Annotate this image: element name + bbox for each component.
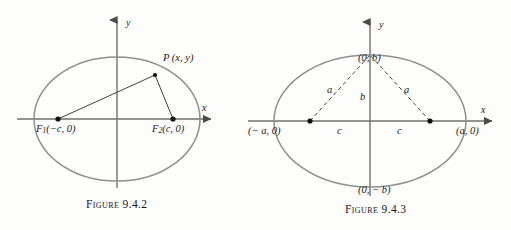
segment-c-right-label: c: [397, 126, 402, 137]
vertex-right-label: (a, 0): [456, 126, 479, 137]
point-p-dot: [153, 73, 157, 77]
focus-2-coords: (c, 0): [162, 123, 184, 134]
segment-c-left-label: c: [337, 126, 342, 137]
focus-1-coords: (−c, 0): [46, 123, 75, 134]
figure-page: y x P (x, y) F1(−c, 0) F2(c, 0) Figure 9…: [0, 0, 511, 230]
focus-left-dot: [307, 118, 312, 123]
figure-9-4-2-graphic: [17, 20, 211, 188]
caption-figure-9-4-2: Figure 9.4.2: [86, 198, 148, 210]
y-axis-label-left: y: [126, 18, 130, 28]
x-axis-label-left: x: [202, 103, 206, 113]
segment-f1-p: [58, 75, 155, 119]
focus-1-dot: [55, 116, 60, 121]
segment-f2-p: [155, 75, 173, 119]
figures-canvas: [0, 0, 511, 230]
focus-2-label: F2(c, 0): [152, 124, 184, 135]
point-p-label: P (x, y): [163, 53, 193, 64]
caption-figure-9-4-3: Figure 9.4.3: [345, 203, 407, 215]
focus-2-dot: [170, 116, 175, 121]
segment-a-right-label: a: [404, 85, 409, 96]
y-axis-label-right: y: [379, 20, 383, 30]
x-axis-label-right: x: [481, 105, 485, 115]
segment-a-left-label: a: [327, 85, 332, 96]
vertex-top-label: (0, b): [358, 53, 381, 64]
segment-b-label: b: [360, 92, 365, 103]
figure-9-4-3-graphic: [248, 22, 492, 196]
focus-1-label: F1(−c, 0): [36, 124, 75, 135]
focus-right-dot: [427, 118, 432, 123]
vertex-bottom-label: (0, − b): [358, 185, 390, 196]
vertex-left-label: (− a, 0): [248, 126, 280, 137]
